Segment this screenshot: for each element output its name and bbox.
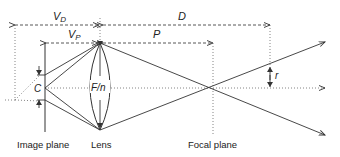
label-vd: VD — [53, 10, 66, 24]
label-focal-plane: Focal plane — [188, 139, 237, 150]
rays-lens-to-focus — [100, 42, 325, 135]
label-fn: F/n — [91, 82, 106, 93]
label-image-plane: Image plane — [17, 139, 69, 150]
label-lens: Lens — [91, 139, 112, 150]
label-c: C — [34, 83, 42, 94]
label-vp: VP — [68, 28, 81, 42]
label-r: r — [275, 70, 279, 81]
label-p: P — [153, 28, 161, 40]
lens-ray-diagram: VD D VP P C F/n r Image plane Lens Focal… — [0, 0, 340, 157]
dimension-vd — [15, 25, 99, 100]
label-d: D — [178, 10, 186, 22]
dimension-d — [103, 25, 270, 66]
